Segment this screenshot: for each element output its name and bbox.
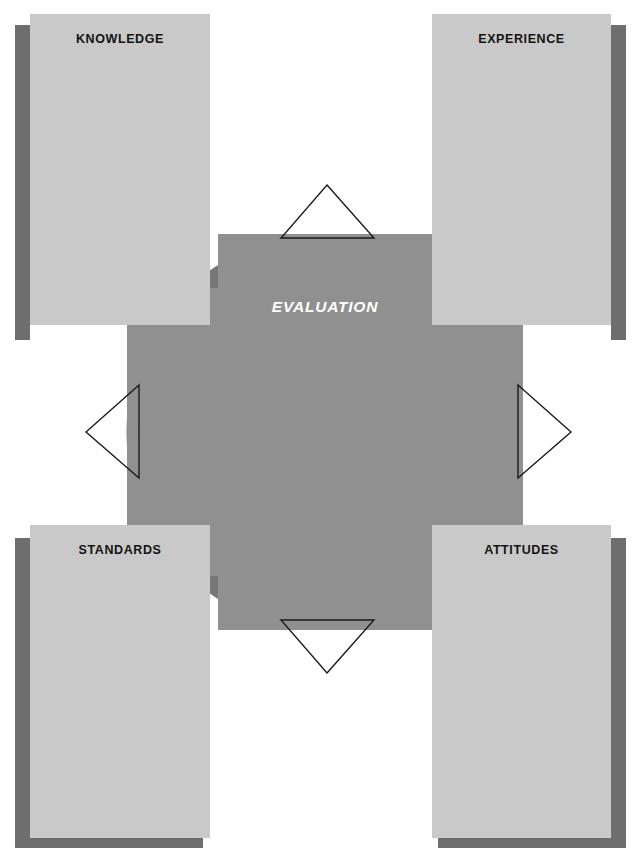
box-shadow-standards-bottom xyxy=(15,838,203,848)
box-shadow-standards-side xyxy=(15,538,30,848)
box-face-experience xyxy=(432,14,611,325)
box-shadow-attitudes-bottom xyxy=(438,838,626,848)
quadrant-label-attitudes: ATTITUDES xyxy=(432,543,611,557)
quadrant-label-standards: STANDARDS xyxy=(30,543,210,557)
box-shadow-experience xyxy=(611,25,626,340)
box-face-standards xyxy=(30,525,210,838)
box-face-knowledge xyxy=(30,14,210,325)
quadrant-box-experience[interactable]: EXPERIENCE xyxy=(432,14,626,340)
quadrant-label-experience: EXPERIENCE xyxy=(432,32,611,46)
quadrant-box-attitudes[interactable]: ATTITUDES xyxy=(432,525,626,848)
evaluation-diagram: EVALUATION KNOWLEDGE EXPERIENCE STANDARD… xyxy=(0,0,640,862)
quadrant-label-knowledge: KNOWLEDGE xyxy=(30,32,210,46)
box-shadow-attitudes-side xyxy=(611,538,626,848)
quadrant-box-knowledge[interactable]: KNOWLEDGE xyxy=(15,14,210,340)
box-face-attitudes xyxy=(432,525,611,838)
connector-right-triangle xyxy=(518,385,571,478)
box-shadow-knowledge xyxy=(15,25,30,340)
quadrant-box-standards[interactable]: STANDARDS xyxy=(15,525,210,848)
connector-top-triangle xyxy=(281,185,374,238)
